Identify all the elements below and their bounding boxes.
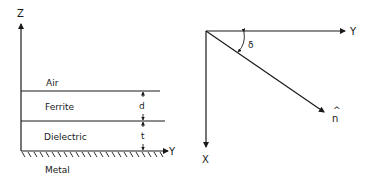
y-axis-label-left: Y: [168, 146, 176, 157]
air-label: Air: [46, 78, 59, 88]
angle-delta-label: δ: [248, 40, 254, 50]
metal-label: Metal: [45, 165, 70, 175]
x-axis-label: X: [202, 154, 209, 165]
n-hat-label: n: [332, 113, 338, 124]
ferrite-label: Ferrite: [45, 102, 74, 112]
y-axis-label-right: Y: [349, 26, 357, 37]
layer-structure-diagram: Z Y Air Ferrite Dielectric Metal d t: [17, 8, 176, 175]
dielectric-label: Dielectric: [44, 132, 87, 142]
thickness-d-label: d: [139, 101, 145, 111]
metal-hatching: [22, 152, 163, 157]
ferrite-thickness-dimension: d: [139, 92, 145, 120]
coordinate-system-diagram: Y X ^ n δ: [202, 26, 357, 165]
n-hat-vector-arrow: [206, 31, 324, 112]
angle-arc: [238, 32, 244, 52]
diagram-canvas: Z Y Air Ferrite Dielectric Metal d t: [0, 0, 368, 181]
z-axis-label: Z: [17, 8, 24, 19]
dielectric-thickness-dimension: t: [141, 122, 145, 150]
thickness-t-label: t: [141, 131, 145, 141]
